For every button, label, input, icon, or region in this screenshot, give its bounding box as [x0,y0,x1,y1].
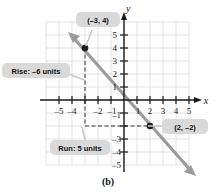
y-tick-label-3: 3 [113,56,118,66]
x-tick-label-3: 3 [161,106,166,116]
y-tick-label-4: 4 [113,43,118,53]
x-tick-label-minus4: –4 [67,106,78,116]
callout-rise-label: Rise: –6 units [12,67,61,76]
callout-run-label: Run: 5 units [58,144,101,153]
x-tick-label-5: 5 [187,106,192,116]
callout-point-lower: (2, –2) [162,119,208,134]
callout-run: Run: 5 units [50,140,110,155]
x-axis-label: x [203,95,209,106]
figure-caption: (b) [0,176,216,187]
x-axis-arrow [194,97,202,103]
x-tick-label-4: 4 [174,106,179,116]
y-tick-label-5: 5 [113,30,118,40]
coordinate-plane-svg: –5 –4 –2 –1 1 2 3 4 5 5 4 3 2 1 –1 –3 –4… [0,0,216,195]
callout-point-upper-label: (–3, 4) [87,16,109,25]
data-point-upper [82,45,89,52]
x-tick-label-minus5: –5 [54,106,65,116]
y-tick-label-minus3: –3 [111,134,122,144]
callout-point-lower-label: (2, –2) [174,123,196,132]
y-tick-label-minus1: –1 [111,110,121,120]
x-tick-label-2: 2 [148,106,153,116]
graph-figure: –5 –4 –2 –1 1 2 3 4 5 5 4 3 2 1 –1 –3 –4… [0,0,216,195]
y-axis-label: y [125,3,131,14]
leader-upper-point [86,30,92,46]
y-tick-label-1: 1 [113,82,118,92]
y-tick-label-minus5: –5 [111,160,122,170]
x-tick-label-1: 1 [136,106,141,116]
y-tick-label-2: 2 [113,69,118,79]
x-tick-label-minus2: –2 [93,106,103,116]
leader-run [82,127,85,140]
y-tick-label-minus4: –4 [111,147,122,157]
callout-rise: Rise: –6 units [2,63,70,78]
callout-point-upper: (–3, 4) [76,12,120,27]
